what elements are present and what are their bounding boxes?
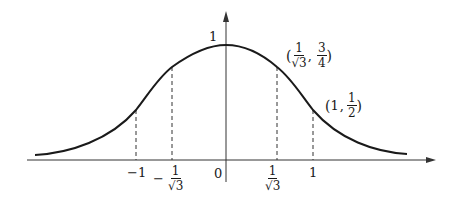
close-paren: ) [327,48,332,64]
x-tick-label-inv-sqrt3: 1 √3 [265,165,280,192]
point-label-inv-sqrt3: ( 1 √3 , 3 4 ) [286,42,332,69]
y-numerator: 1 [347,92,357,106]
denominator: √3 [168,179,183,192]
y-fraction: 1 2 [347,92,357,119]
numerator: 1 [268,165,278,179]
close-paren: ) [357,98,362,114]
y-fraction: 3 4 [317,42,327,69]
separator: , [308,48,312,63]
fraction: 1 √3 [265,165,280,192]
x-axis-arrow-icon [426,157,436,163]
origin-label: 0 [214,167,222,180]
separator: , [340,98,344,113]
y-denominator: 4 [318,56,326,69]
y-denominator: 2 [348,106,356,119]
x-value: 1 [330,98,338,113]
sign: − [153,171,164,186]
fraction: 1 √3 [168,165,183,192]
denominator: √3 [265,179,280,192]
x-tick-label-neg1: −1 [127,166,146,179]
numerator: 1 [171,165,181,179]
diagram-canvas [0,0,456,202]
x-numerator: 1 [294,42,304,56]
y-numerator: 3 [317,42,327,56]
y-tick-label-1: 1 [209,30,217,43]
point-label-one: (1, 1 2 ) [325,92,362,119]
x-denominator: √3 [291,56,306,69]
x-tick-label-pos1: 1 [309,166,317,179]
x-tick-label-neg-inv-sqrt3: − 1 √3 [153,165,183,192]
y-axis-arrow-icon [223,11,229,22]
x-fraction: 1 √3 [291,42,306,69]
